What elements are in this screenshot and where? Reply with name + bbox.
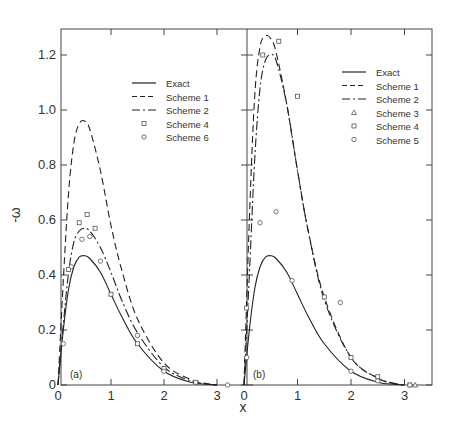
legend-label: Scheme 3 bbox=[376, 108, 419, 119]
scheme-5-point bbox=[349, 369, 353, 373]
legend-label: Exact bbox=[166, 78, 190, 89]
scheme-4-point bbox=[85, 213, 89, 217]
legend-panel-b: ExactScheme 1Scheme 2Scheme 3Scheme 4Sch… bbox=[342, 67, 419, 146]
legend-label: Scheme 4 bbox=[376, 121, 419, 132]
x-tick-label: 1 bbox=[294, 388, 301, 403]
x-axis-label: x bbox=[240, 399, 247, 415]
scheme-5-legend-icon bbox=[352, 137, 356, 141]
y-axis-label: -ω bbox=[7, 207, 23, 223]
scheme-6-point bbox=[88, 234, 92, 238]
legend-label: Scheme 1 bbox=[166, 92, 209, 103]
scheme-4-point bbox=[194, 380, 198, 384]
legend-label: Scheme 2 bbox=[376, 94, 419, 105]
scheme-4-legend-icon bbox=[352, 124, 356, 128]
x-tick-label: 3 bbox=[213, 388, 220, 403]
scheme-6-point bbox=[98, 259, 102, 263]
legend-label: Scheme 6 bbox=[166, 132, 209, 143]
panel-b-label: (b) bbox=[253, 369, 265, 380]
scheme-4-point bbox=[277, 39, 281, 43]
x-tick-label: 1 bbox=[107, 388, 114, 403]
y-tick-label: 0.4 bbox=[38, 267, 56, 282]
axis-tick-labels: 00.20.40.60.81.01.201230123 bbox=[38, 47, 408, 403]
scheme-4-point bbox=[296, 94, 300, 98]
y-tick-label: 0.2 bbox=[38, 322, 56, 337]
scheme-4-point bbox=[349, 356, 353, 360]
scheme-6-point bbox=[69, 265, 73, 269]
scheme-5-point bbox=[258, 221, 262, 225]
scheme-6-point bbox=[135, 333, 139, 337]
scheme-4-point bbox=[77, 221, 81, 225]
scheme-3-legend-icon bbox=[352, 110, 357, 115]
scheme-5-point bbox=[274, 210, 278, 214]
y-tick-label: 1.2 bbox=[38, 47, 56, 62]
scheme-4-point bbox=[136, 342, 140, 346]
scheme-5-point bbox=[290, 278, 294, 282]
y-tick-label: 0.8 bbox=[38, 157, 56, 172]
legend-label: Scheme 1 bbox=[376, 81, 419, 92]
y-tick-label: 0.6 bbox=[38, 212, 56, 227]
exact-curve bbox=[244, 256, 405, 385]
scheme-5-point bbox=[338, 300, 342, 304]
y-tick-label: 1.0 bbox=[38, 102, 56, 117]
scheme-2-curve bbox=[58, 228, 217, 385]
legend-label: Scheme 2 bbox=[166, 105, 209, 116]
scheme-6-point bbox=[80, 237, 84, 241]
scheme-4-point bbox=[322, 295, 326, 299]
scheme-4-point bbox=[93, 226, 97, 230]
legend-label: Exact bbox=[376, 67, 400, 78]
x-tick-label: 2 bbox=[160, 388, 167, 403]
scheme-6-point bbox=[61, 342, 65, 346]
x-tick-label: 2 bbox=[347, 388, 354, 403]
scheme-4-point bbox=[376, 375, 380, 379]
panel-a-label: (a) bbox=[70, 369, 82, 380]
panel-a-series bbox=[58, 120, 230, 387]
scheme-5-point bbox=[408, 383, 412, 387]
legend-panel-a: ExactScheme 1Scheme 2Scheme 4Scheme 6 bbox=[132, 78, 209, 143]
scheme-6-point bbox=[225, 383, 229, 387]
legend-label: Scheme 4 bbox=[166, 119, 209, 130]
scheme-6-point bbox=[162, 369, 166, 373]
scheme-4-point bbox=[261, 53, 265, 57]
scheme-4-point bbox=[109, 292, 113, 296]
two-panel-line-chart: 00.20.40.60.81.01.201230123 -ω x (a) (b)… bbox=[0, 0, 454, 442]
scheme-4-point bbox=[245, 306, 249, 310]
x-tick-label: 3 bbox=[401, 388, 408, 403]
scheme-5-point bbox=[244, 355, 248, 359]
legend-label: Scheme 5 bbox=[376, 135, 419, 146]
x-tick-label: 0 bbox=[54, 388, 61, 403]
scheme-4-legend-icon bbox=[142, 122, 146, 126]
scheme-5-point bbox=[376, 379, 380, 383]
scheme-6-legend-icon bbox=[142, 135, 146, 139]
